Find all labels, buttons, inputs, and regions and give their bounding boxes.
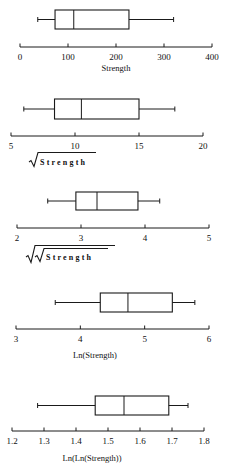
x-axis-label: Strength [26,246,115,263]
x-tick-label: 100 [61,52,75,62]
boxplot-figure: 0100200300400Strength5101520Strength2345… [0,0,225,469]
iqr-box [100,293,172,312]
x-tick-label: 5 [9,141,14,151]
x-tick-label: 4 [78,334,83,344]
x-tick-label: 1.5 [102,436,114,446]
x-tick-label: 1.3 [38,436,50,446]
x-tick-label: 2 [15,233,20,243]
x-tick-label: 0 [18,52,23,62]
x-axis-label: Ln(Ln(Strength)) [62,453,121,463]
iqr-box [55,99,139,119]
svg-text:Strength: Strength [46,253,93,262]
x-tick-label: 1.4 [70,436,82,446]
boxplot-canvas: 0100200300400Strength5101520Strength2345… [0,0,225,469]
x-tick-label: 200 [109,52,123,62]
x-tick-label: 6 [207,334,212,344]
x-tick-label: 5 [207,233,212,243]
x-tick-label: 5 [142,334,147,344]
x-axis-label: Ln(Strength) [73,350,117,360]
boxplot-panel-1: 0100200300400Strength [18,10,220,73]
boxplot-panel-2: 5101520Strength [9,99,208,167]
x-axis-label: Strength [102,63,132,73]
x-tick-label: 300 [157,52,171,62]
boxplot-panel-5: 1.21.31.41.51.61.71.8Ln(Ln(Strength)) [6,396,210,463]
x-tick-label: 4 [143,233,148,243]
svg-text:Strength: Strength [40,158,87,167]
x-tick-label: 1.7 [166,436,178,446]
x-tick-label: 1.2 [6,436,17,446]
iqr-box [76,192,138,210]
boxplot-panel-3: 2345Strength [15,192,212,263]
boxplot-panel-4: 3456Ln(Strength) [14,293,212,360]
x-tick-label: 3 [14,334,19,344]
x-tick-label: 1.6 [134,436,146,446]
x-tick-label: 20 [199,141,209,151]
iqr-box [95,396,169,415]
x-tick-label: 3 [79,233,84,243]
x-tick-label: 400 [205,52,219,62]
x-tick-label: 1.8 [198,436,210,446]
x-tick-label: 15 [135,141,145,151]
x-axis-label: Strength [29,153,96,168]
x-tick-label: 10 [71,141,81,151]
iqr-box [55,10,129,29]
